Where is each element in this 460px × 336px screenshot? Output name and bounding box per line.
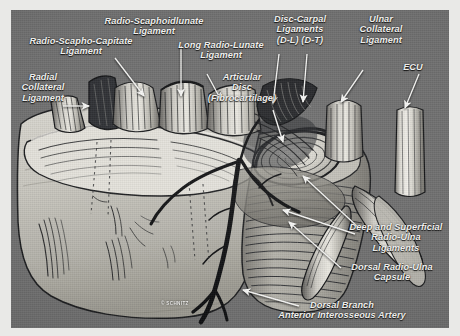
leader-deep-superficial-1 bbox=[303, 176, 359, 228]
label-ecu[interactable]: ECU bbox=[393, 62, 433, 72]
leader-articular-disc bbox=[273, 110, 283, 142]
label-disc-carpal-ligaments[interactable]: Disc-Carpal Ligaments (D-L) (D-T) bbox=[257, 14, 343, 45]
leader-dorsal-radio-ulna-capsule bbox=[289, 222, 341, 268]
label-dorsal-radio-ulna-capsule[interactable]: Dorsal Radio-Ulna Capsule bbox=[337, 262, 447, 283]
label-radio-scapho-capitate-ligament[interactable]: Radio-Scapho-Capitate Ligament bbox=[11, 36, 153, 57]
leader-radio-scapho-capitate bbox=[115, 58, 144, 96]
label-articular-disc[interactable]: Articular Disc (Fibrocartilage) bbox=[193, 72, 291, 103]
illustration-plate: Radio-Scaphoidlunate Ligament Radio-Scap… bbox=[11, 10, 449, 328]
leader-ulnar-collateral bbox=[341, 70, 363, 102]
illustration-figure: Radio-Scaphoidlunate Ligament Radio-Scap… bbox=[0, 0, 460, 336]
label-dorsal-branch-anterior-interosseous-artery[interactable]: Dorsal Branch Anterior Interosseous Arte… bbox=[251, 300, 433, 321]
leader-disc-carpal-dt bbox=[303, 54, 307, 102]
label-radial-collateral-ligament[interactable]: Radial Collateral Ligament bbox=[11, 72, 79, 103]
copyright-credit: © SCHNITZ bbox=[161, 301, 189, 306]
label-radio-scapholunate-ligament[interactable]: Radio-Scaphoidlunate Ligament bbox=[86, 16, 222, 37]
leader-ecu bbox=[405, 74, 419, 108]
label-ulnar-collateral-ligament[interactable]: Ulnar Collateral Ligament bbox=[347, 14, 415, 45]
label-deep-superficial-radio-ulna-ligaments[interactable]: Deep and Superficial Radio-Ulna Ligament… bbox=[341, 222, 449, 253]
